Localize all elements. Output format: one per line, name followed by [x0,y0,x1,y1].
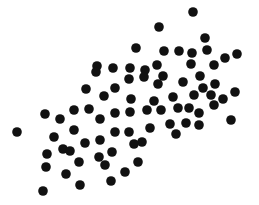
data-point [168,92,178,102]
data-point [232,49,242,59]
data-point [165,119,175,129]
data-point [69,125,79,135]
data-point [159,46,169,56]
data-point [220,53,230,63]
scatter-plot [0,0,259,205]
data-point [131,43,141,53]
data-point [99,91,109,101]
data-point [40,109,50,119]
data-point [154,22,164,32]
data-point [202,45,212,55]
data-point [171,129,181,139]
data-point [110,83,120,93]
data-point [153,79,163,89]
data-point [189,90,199,100]
data-point [94,152,104,162]
data-point [84,104,94,114]
data-point [129,139,139,149]
data-point [181,118,191,128]
data-point [133,157,143,167]
data-point [95,114,105,124]
data-point [125,63,135,73]
data-point [137,137,147,147]
data-point [210,79,220,89]
data-point [178,77,188,87]
data-point [110,127,120,137]
data-point [218,94,228,104]
data-point [108,63,118,73]
data-point [74,157,84,167]
data-point [139,72,149,82]
data-point [198,83,208,93]
data-point [158,71,168,81]
data-point [80,138,90,148]
data-point [173,103,183,113]
data-point [69,105,79,115]
data-point [55,114,65,124]
data-point [12,127,22,137]
data-point [230,87,240,97]
data-point [124,74,134,84]
data-point [209,60,219,70]
data-point [42,149,52,159]
data-point [194,108,204,118]
data-point [110,108,120,118]
data-point [120,167,130,177]
data-point [41,162,51,172]
data-point [174,46,184,56]
data-point [106,176,116,186]
data-point [186,59,196,69]
data-point [200,33,210,43]
data-point [38,186,48,196]
data-point [209,100,219,110]
data-point [91,67,101,77]
scatter-canvas [0,0,259,205]
data-point [61,169,71,179]
data-point [194,120,204,130]
data-point [125,107,135,117]
data-point [188,7,198,17]
data-point [226,115,236,125]
data-point [75,180,85,190]
data-point [156,105,166,115]
data-point [142,105,152,115]
data-point [100,160,110,170]
data-point [206,90,216,100]
data-point [65,146,75,156]
data-point [145,123,155,133]
data-point [152,60,162,70]
data-point [126,94,136,104]
data-point [49,132,59,142]
data-point [149,96,159,106]
data-point [81,84,91,94]
data-point [195,71,205,81]
data-point [95,135,105,145]
data-point [124,127,134,137]
data-point [184,103,194,113]
data-point [107,147,117,157]
data-point [187,48,197,58]
